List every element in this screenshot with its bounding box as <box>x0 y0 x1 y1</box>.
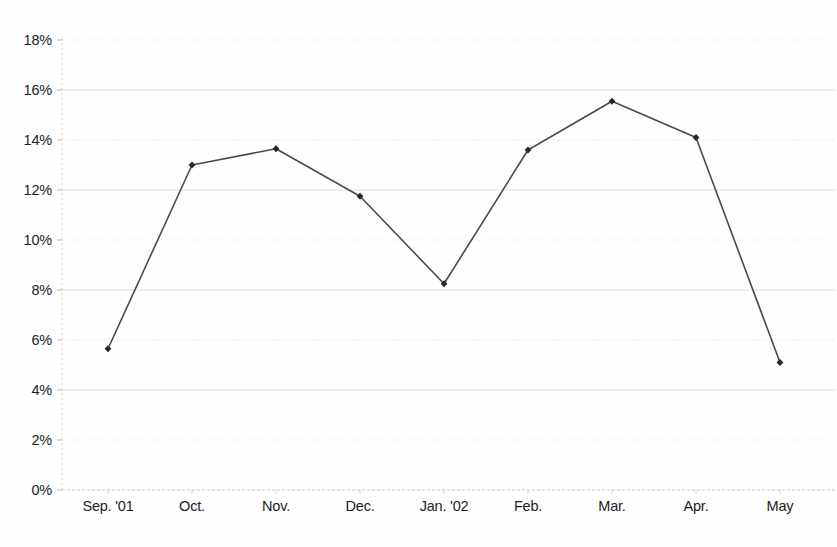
y-axis-label-6: 6% <box>0 332 52 348</box>
plot-area <box>0 0 837 547</box>
x-axis-label-0: Sep. '01 <box>82 498 133 514</box>
x-axis-label-7: Apr. <box>684 498 709 514</box>
data-series-line <box>108 101 780 362</box>
gridlines <box>62 40 835 440</box>
x-axis-label-3: Dec. <box>345 498 374 514</box>
x-axis-label-1: Oct. <box>179 498 205 514</box>
data-point-0 <box>105 345 112 352</box>
y-axis-label-8: 8% <box>0 282 52 298</box>
y-axis-label-16: 16% <box>0 82 52 98</box>
x-axis-label-5: Feb. <box>514 498 542 514</box>
chart-container: 0%2%4%6%8%10%12%14%16%18% Sep. '01Oct.No… <box>0 0 837 547</box>
data-point-1 <box>189 162 196 169</box>
y-axis-label-2: 2% <box>0 432 52 448</box>
data-point-6 <box>609 98 616 105</box>
data-point-2 <box>273 145 280 152</box>
x-axis-label-6: Mar. <box>598 498 625 514</box>
y-axis-label-18: 18% <box>0 32 52 48</box>
data-point-markers <box>105 98 784 366</box>
axis-lines <box>62 38 835 490</box>
y-axis-label-14: 14% <box>0 132 52 148</box>
y-axis-label-12: 12% <box>0 182 52 198</box>
y-axis-label-4: 4% <box>0 382 52 398</box>
x-axis-label-2: Nov. <box>262 498 290 514</box>
axis-tick-marks <box>57 40 780 494</box>
y-axis-label-10: 10% <box>0 232 52 248</box>
x-axis-label-8: May <box>767 498 794 514</box>
x-axis-label-4: Jan. '02 <box>420 498 469 514</box>
y-axis-label-0: 0% <box>0 482 52 498</box>
data-point-8 <box>777 359 784 366</box>
